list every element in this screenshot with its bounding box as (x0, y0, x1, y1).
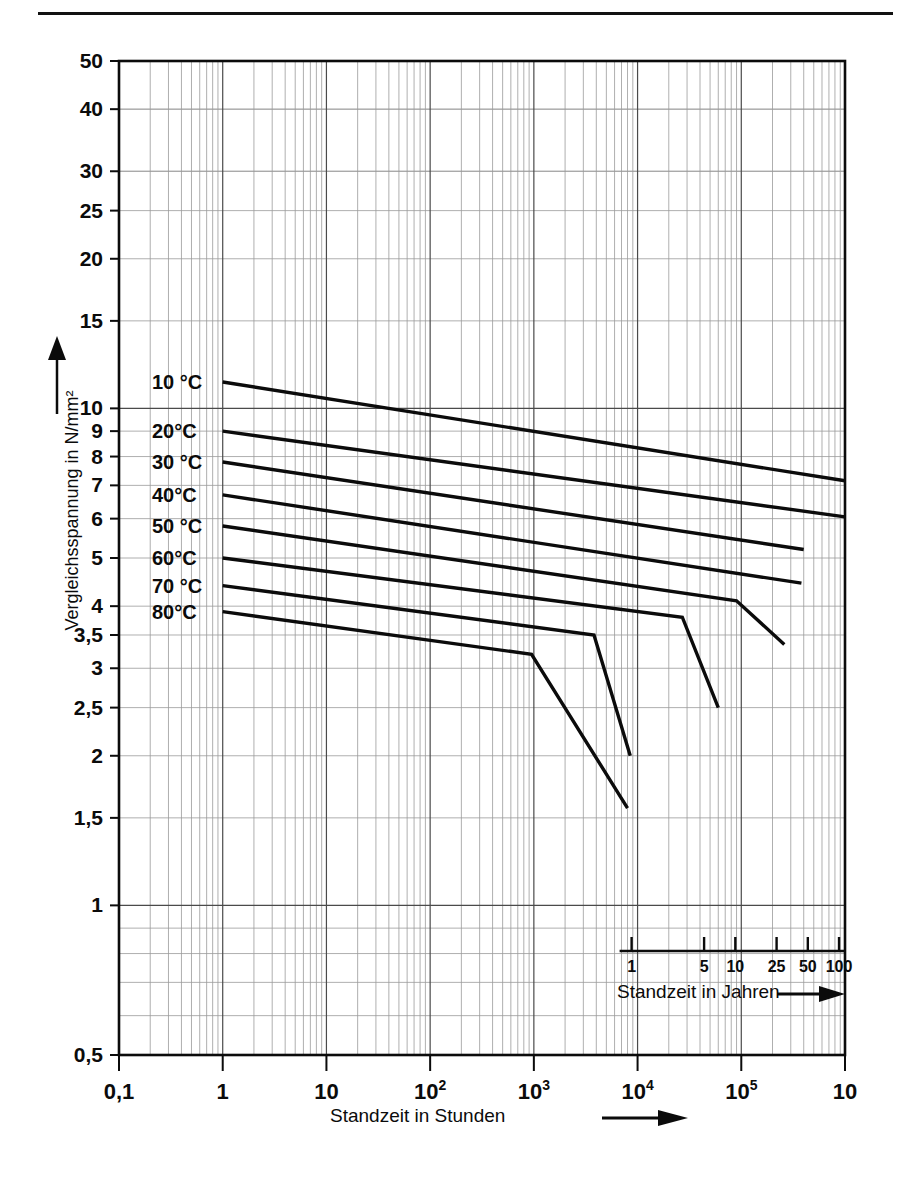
x-tick-label: 10 (833, 1079, 857, 1104)
curve-70c (223, 586, 631, 756)
curve-30c (223, 462, 804, 550)
series-label: 10 °C (152, 371, 202, 393)
years-tick-label: 100 (826, 958, 853, 975)
years-tick-label: 25 (768, 958, 786, 975)
y-tick-label: 2,5 (74, 696, 104, 719)
x-tick-label: 10 (314, 1079, 338, 1104)
y-tick-label: 15 (80, 309, 104, 332)
chart-figure: 504030252015109876543,532,521,510,5 0,11… (0, 0, 901, 1181)
y-tick-label: 10 (80, 396, 103, 419)
years-tick-label: 5 (700, 958, 709, 975)
curve-60c (223, 558, 719, 708)
y-tick-label: 40 (80, 97, 103, 120)
y-axis-arrow-icon (44, 336, 70, 414)
series-label: 20°C (152, 420, 197, 442)
x-tick-label: 105 (725, 1077, 757, 1104)
y-tick-label: 1,5 (74, 806, 104, 829)
log-log-chart: 504030252015109876543,532,521,510,5 0,11… (0, 0, 901, 1181)
y-tick-label: 20 (80, 247, 103, 270)
years-tick-label: 1 (627, 958, 636, 975)
x-tick-label: 0,1 (104, 1079, 135, 1104)
series-label: 70 °C (152, 575, 202, 597)
series-label: 60°C (152, 547, 197, 569)
y-tick-label: 8 (91, 445, 103, 468)
y-tick-label: 0,5 (74, 1043, 104, 1066)
x-tick-label: 104 (621, 1077, 653, 1104)
series-label: 50 °C (152, 515, 202, 537)
x-tick-label: 103 (518, 1077, 550, 1104)
axis-ticks (110, 61, 845, 1071)
years-axis-arrow-icon (775, 982, 847, 1006)
years-axis-title: Standzeit in Jahren (617, 981, 780, 1003)
x-axis-tick-labels: 0,111010210310410510 (104, 1077, 858, 1104)
y-tick-label: 6 (91, 507, 103, 530)
y-tick-label: 25 (80, 199, 104, 222)
y-tick-label: 7 (91, 473, 103, 496)
series-label: 80°C (152, 601, 197, 623)
y-axis-title: Vergleichsspannung in N/mm² (62, 381, 83, 641)
x-axis-arrow-icon (600, 1106, 690, 1130)
figure-page: 504030252015109876543,532,521,510,5 0,11… (0, 0, 901, 1181)
years-tick-label: 10 (726, 958, 744, 975)
x-tick-label: 1 (217, 1079, 229, 1104)
years-tick-label: 50 (799, 958, 817, 975)
y-tick-label: 4 (91, 594, 103, 617)
secondary-years-axis: 15102550100 (620, 937, 853, 975)
x-tick-label: 102 (414, 1077, 446, 1104)
series-label: 40°C (152, 484, 197, 506)
y-tick-label: 2 (91, 744, 103, 767)
x-axis-title: Standzeit in Stunden (330, 1105, 505, 1127)
y-tick-label: 9 (91, 419, 103, 442)
y-tick-label: 30 (80, 159, 103, 182)
y-tick-label: 50 (80, 49, 103, 72)
y-tick-label: 1 (91, 893, 103, 916)
series-label: 30 °C (152, 451, 202, 473)
y-tick-label: 3 (91, 656, 103, 679)
y-tick-label: 5 (91, 546, 103, 569)
